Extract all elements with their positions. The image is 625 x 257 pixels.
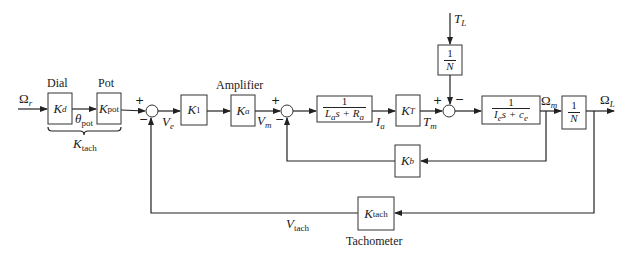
ve-label: Ve bbox=[162, 115, 174, 131]
sum2-minus-sign: − bbox=[275, 113, 284, 126]
pot-caption: Pot bbox=[98, 76, 114, 91]
pot-to-sum1-arrow bbox=[121, 110, 145, 111]
tachometer-caption: Tachometer bbox=[346, 234, 402, 249]
ktach-brace bbox=[48, 127, 121, 135]
sum2-plus-sign: + bbox=[271, 94, 280, 107]
vtach-label: Vtach bbox=[286, 217, 309, 233]
dial-block: Kd bbox=[48, 93, 72, 124]
tl-label: TL bbox=[454, 12, 466, 28]
input-signal-label: Ωr bbox=[19, 92, 32, 108]
diagram-wires bbox=[0, 0, 625, 257]
dial-caption: Dial bbox=[47, 76, 68, 91]
pot-block: Kpot bbox=[97, 93, 121, 124]
back-emf-block: Kb bbox=[395, 145, 420, 177]
tachometer-block: Ktach bbox=[358, 197, 394, 230]
tm-label: Tm bbox=[423, 115, 437, 131]
sum1-plus-sign: + bbox=[135, 94, 144, 107]
load-gear-block: 1 N bbox=[438, 45, 462, 75]
sum3-plus-sign: + bbox=[433, 94, 442, 107]
amplifier-block: Ka bbox=[231, 95, 255, 126]
omega-m-label: Ωm bbox=[541, 94, 557, 110]
theta-pot-label: θpot bbox=[75, 112, 93, 128]
ia-label: Ia bbox=[376, 115, 385, 131]
sum1-minus-sign: − bbox=[139, 113, 148, 126]
k1-block: K1 bbox=[181, 95, 207, 125]
amplifier-caption: Amplifier bbox=[216, 78, 263, 93]
brace-ktach-label: Ktach bbox=[73, 137, 97, 153]
vm-label: Vm bbox=[257, 114, 271, 130]
torque-constant-block: KT bbox=[396, 95, 420, 126]
tach-feedback-out bbox=[151, 118, 358, 213]
output-gear-block: 1 N bbox=[562, 96, 586, 129]
armature-block: 1 Las + Ra bbox=[317, 96, 372, 122]
sum3-minus-sign: − bbox=[455, 93, 464, 106]
omega-l-label: ΩL bbox=[600, 93, 615, 109]
mechanical-block: 1 Ies + ce bbox=[482, 96, 540, 124]
summing-junction-3 bbox=[443, 105, 455, 117]
